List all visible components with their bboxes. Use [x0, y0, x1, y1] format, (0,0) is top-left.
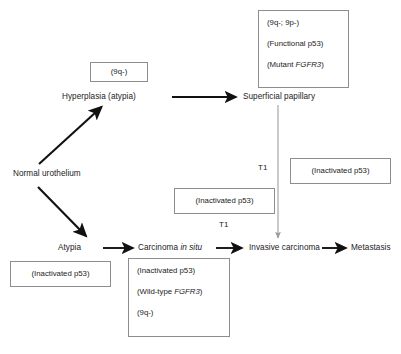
annotation-cis-line-2: (Wild-type FGFR3) [137, 288, 221, 296]
node-atypia: Atypia [58, 244, 81, 252]
annotation-cis-line-3: (9q-) [137, 309, 221, 317]
annotation-atypia-line-1: (Inactivated p53) [31, 270, 89, 278]
edge-normal-to-hyperplasia [39, 107, 102, 164]
node-carcinoma-in-situ: Carcinoma in situ [138, 244, 202, 252]
annotation-box-middle: (Inactivated p53) [174, 188, 275, 214]
node-metastasis: Metastasis [351, 244, 391, 252]
annotation-box-invasive-right: (Inactivated p53) [290, 158, 391, 184]
node-invasive-carcinoma: Invasive carcinoma [249, 244, 320, 252]
annotation-cis-line-2-prefix: (Wild-type [137, 287, 174, 296]
edge-label-t1-lower: T1 [219, 221, 228, 229]
annotation-superficial-line-1: (9q-; 9p-) [267, 19, 340, 27]
annotation-cis-line-2-gene: FGFR3 [174, 287, 200, 296]
annotation-superficial-line-2: (Functional p53) [267, 40, 340, 48]
annotation-superficial-line-3: (Mutant FGFR3) [267, 61, 340, 69]
annotation-invasive-right-line-1: (Inactivated p53) [311, 167, 369, 175]
node-hyperplasia: Hyperplasia (atypia) [62, 93, 136, 101]
annotation-box-atypia: (Inactivated p53) [10, 261, 111, 287]
carcinoma-in-situ-prefix: Carcinoma [138, 243, 180, 252]
annotation-cis-line-2-suffix: ) [200, 287, 203, 296]
annotation-superficial-line-3-gene: FGFR3 [296, 60, 322, 69]
annotation-hyperplasia-line-1: (9q-) [111, 68, 127, 76]
annotation-superficial-line-3-suffix: ) [321, 60, 324, 69]
edge-normal-to-atypia [38, 187, 86, 236]
node-superficial-papillary: Superficial papillary [243, 93, 315, 101]
annotation-superficial-line-3-prefix: (Mutant [267, 60, 296, 69]
annotation-middle-line-1: (Inactivated p53) [195, 197, 253, 205]
annotation-box-carcinoma-in-situ: (Inactivated p53) (Wild-type FGFR3) (9q-… [128, 258, 230, 337]
carcinoma-in-situ-italic: in situ [180, 243, 202, 252]
annotation-box-superficial-papillary: (9q-; 9p-) (Functional p53) (Mutant FGFR… [258, 10, 349, 88]
pathway-diagram: Normal urothelium Hyperplasia (atypia) S… [0, 0, 401, 354]
edge-label-t1-upper: T1 [258, 164, 267, 172]
annotation-cis-line-1: (Inactivated p53) [137, 267, 221, 275]
annotation-box-hyperplasia: (9q-) [90, 62, 148, 82]
node-normal-urothelium: Normal urothelium [13, 170, 81, 178]
